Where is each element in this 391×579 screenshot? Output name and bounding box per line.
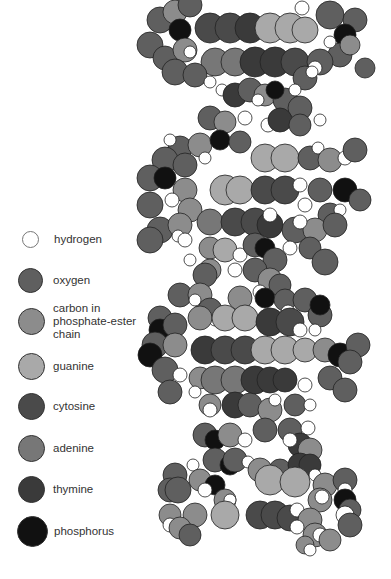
hydrogen-atom	[263, 208, 277, 222]
oxygen-atom	[312, 249, 338, 275]
oxygen-atom	[355, 58, 375, 78]
hydrogen-atom	[293, 178, 307, 192]
oxygen-atom	[253, 418, 277, 442]
guanine-atom	[226, 176, 254, 204]
oxygen-atom	[333, 378, 357, 402]
hydrogen-atom	[228, 263, 242, 277]
hydrogen-atom	[252, 94, 264, 106]
oxygen-atom	[308, 178, 332, 202]
hydrogen-atom	[178, 233, 192, 247]
hydrogen-atom	[189, 386, 201, 398]
oxygen-atom	[289, 114, 311, 136]
oxygen-atom	[349, 189, 371, 211]
oxygen-atom	[137, 192, 163, 218]
guanine-atom	[232, 305, 258, 331]
hydrogen-atom	[315, 490, 329, 504]
carbon-atom	[214, 111, 236, 133]
hydrogen-atom	[293, 215, 307, 229]
guanine-atom	[271, 144, 299, 172]
hydrogen-atom	[306, 66, 318, 78]
phosphorus-atom	[310, 295, 330, 315]
hydrogen-atom	[165, 193, 179, 207]
hydrogen-atom	[283, 241, 297, 255]
hydrogen-atom	[184, 46, 196, 58]
carbon-atom	[188, 306, 212, 330]
guanine-atom	[280, 467, 310, 497]
hydrogen-atom	[304, 399, 316, 411]
hydrogen-atom	[173, 368, 187, 382]
hydrogen-atom	[199, 152, 211, 164]
carbon-atom	[319, 529, 341, 551]
thymine-atom	[273, 368, 297, 392]
hydrogen-atom	[298, 378, 312, 392]
guanine-atom	[292, 17, 318, 43]
phosphorus-atom	[266, 81, 284, 99]
thymine-atom	[268, 108, 292, 132]
oxygen-atom	[183, 63, 207, 87]
oxygen-atom	[173, 153, 197, 177]
oxygen-atom	[338, 350, 362, 374]
hydrogen-atom	[198, 483, 212, 497]
hydrogen-atom	[309, 324, 321, 336]
oxygen-atom	[323, 213, 347, 237]
hydrogen-atom	[301, 421, 315, 435]
hydrogen-atom	[238, 111, 252, 125]
carbon-atom	[340, 35, 360, 55]
oxygen-atom	[284, 394, 306, 416]
oxygen-atom	[316, 1, 344, 29]
hydrogen-atom	[314, 114, 326, 126]
hydrogen-atom	[324, 36, 336, 48]
hydrogen-atom	[298, 198, 312, 212]
oxygen-atom	[158, 380, 182, 404]
adenine-atom	[197, 209, 223, 235]
oxygen-atom	[229, 131, 251, 153]
phosphorus-atom	[154, 167, 176, 189]
hydrogen-atom	[269, 394, 281, 406]
hydrogen-atom	[184, 254, 196, 266]
oxygen-atom	[179, 524, 201, 546]
hydrogen-atom	[290, 520, 304, 534]
hydrogen-atom	[289, 84, 301, 96]
hydrogen-atom	[283, 433, 297, 447]
phosphorus-atom	[210, 130, 230, 150]
hydrogen-atom	[295, 1, 309, 15]
guanine-atom	[213, 238, 237, 262]
guanine-atom	[211, 501, 239, 529]
hydrogen-atom	[203, 403, 217, 417]
dna-helix-model	[0, 0, 391, 579]
carbon-atom	[218, 423, 242, 447]
hydrogen-atom	[293, 323, 307, 337]
oxygen-atom	[338, 513, 362, 537]
phosphorus-atom	[169, 19, 191, 41]
oxygen-atom	[343, 138, 367, 162]
hydrogen-atom	[238, 433, 252, 447]
oxygen-atom	[165, 477, 191, 503]
hydrogen-atom	[204, 76, 216, 88]
hydrogen-atom	[164, 134, 176, 146]
phosphorus-atom	[255, 288, 275, 308]
carbon-atom	[163, 333, 187, 357]
oxygen-atom	[137, 227, 163, 253]
hydrogen-atom	[304, 544, 316, 556]
